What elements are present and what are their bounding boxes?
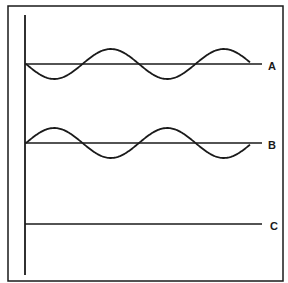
label-b: B [268, 139, 276, 151]
wave-b: B [25, 128, 276, 158]
wave-a: A [25, 49, 276, 79]
label-a: A [268, 60, 276, 72]
label-c: C [270, 220, 278, 232]
wave-c: C [25, 220, 278, 232]
wave-diagram: A B C [0, 0, 288, 283]
